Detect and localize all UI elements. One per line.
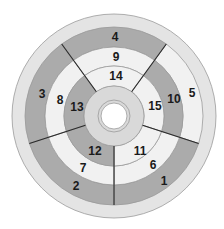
segment-label-10: 10 <box>167 92 181 106</box>
segment-label-4: 4 <box>112 30 119 44</box>
bullseye-diagram: 491438131510512117621 <box>0 0 224 229</box>
segment-label-3: 3 <box>39 87 46 101</box>
segment-label-15: 15 <box>148 99 162 113</box>
segment-label-12: 12 <box>88 144 102 158</box>
segment-label-13: 13 <box>70 100 84 114</box>
segment-label-11: 11 <box>134 144 147 158</box>
segment-label-1: 1 <box>161 174 168 188</box>
center-hole <box>101 103 127 129</box>
segment-label-14: 14 <box>109 69 123 83</box>
segment-label-6: 6 <box>150 158 157 172</box>
segment-label-2: 2 <box>73 179 80 193</box>
segment-label-8: 8 <box>57 93 64 107</box>
segment-label-7: 7 <box>80 161 87 175</box>
segment-label-9: 9 <box>113 50 120 64</box>
segment-label-5: 5 <box>189 86 196 100</box>
